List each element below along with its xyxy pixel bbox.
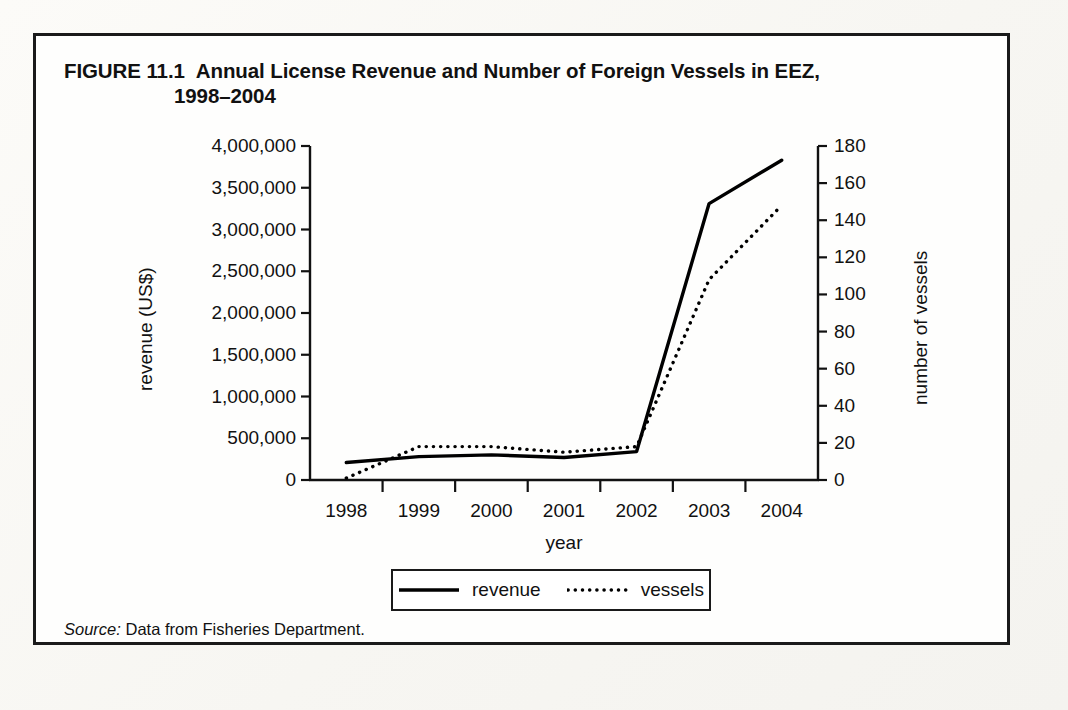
legend-solid-line-icon xyxy=(398,583,460,597)
legend-dotted-line-icon xyxy=(567,583,629,597)
ytick-right-9: 180 xyxy=(834,135,890,157)
xtick-0: 1998 xyxy=(325,500,367,522)
figure-box: FIGURE 11.1Annual License Revenue and Nu… xyxy=(33,33,1010,645)
xtick-1: 1999 xyxy=(398,500,440,522)
source-label: Source: xyxy=(64,620,121,638)
ytick-right-4: 80 xyxy=(834,321,890,343)
ytick-right-5: 100 xyxy=(834,283,890,305)
ytick-left-8: 4,000,000 xyxy=(170,135,296,157)
page-background: FIGURE 11.1Annual License Revenue and Nu… xyxy=(0,0,1068,710)
ytick-right-7: 140 xyxy=(834,209,890,231)
chart-series xyxy=(346,160,781,478)
chart-axes xyxy=(301,146,827,492)
ytick-left-1: 500,000 xyxy=(170,427,296,449)
series-line-revenue xyxy=(346,160,781,462)
ytick-left-6: 3,000,000 xyxy=(170,219,296,241)
legend-label-revenue: revenue xyxy=(472,579,541,601)
ytick-left-4: 2,000,000 xyxy=(170,302,296,324)
ytick-left-7: 3,500,000 xyxy=(170,177,296,199)
ytick-right-3: 60 xyxy=(834,358,890,380)
ytick-right-6: 120 xyxy=(834,246,890,268)
ytick-left-5: 2,500,000 xyxy=(170,260,296,282)
y-axis-left-title: revenue (US$) xyxy=(135,267,157,391)
ytick-right-2: 40 xyxy=(834,395,890,417)
xtick-4: 2002 xyxy=(615,500,657,522)
xtick-5: 2003 xyxy=(688,500,730,522)
legend-entry-revenue: revenue xyxy=(398,579,541,601)
xtick-6: 2004 xyxy=(761,500,803,522)
ytick-left-0: 0 xyxy=(170,469,296,491)
ytick-left-3: 1,500,000 xyxy=(170,344,296,366)
x-axis-title: year xyxy=(546,532,583,554)
chart-legend: revenue vessels xyxy=(391,569,711,611)
y-axis-right-title: number of vessels xyxy=(910,251,932,405)
legend-label-vessels: vessels xyxy=(641,579,704,601)
xtick-3: 2001 xyxy=(543,500,585,522)
legend-entry-vessels: vessels xyxy=(567,579,704,601)
source-note: Source: Data from Fisheries Department. xyxy=(64,620,365,639)
ytick-right-8: 160 xyxy=(834,172,890,194)
ytick-right-1: 20 xyxy=(834,432,890,454)
ytick-left-2: 1,000,000 xyxy=(170,386,296,408)
chart-plot: 0500,0001,000,0001,500,0002,000,0002,500… xyxy=(36,36,1013,648)
xtick-2: 2000 xyxy=(470,500,512,522)
series-line-vessels xyxy=(346,205,781,478)
source-text: Data from Fisheries Department. xyxy=(125,620,364,638)
ytick-right-0: 0 xyxy=(834,469,890,491)
